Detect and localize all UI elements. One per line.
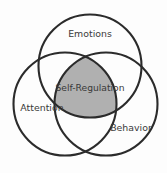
label-behavior: Behavior	[110, 122, 152, 133]
label-self-regulation: Self-Regulation	[55, 82, 124, 93]
label-emotions: Emotions	[68, 28, 112, 39]
label-attention: Attention	[20, 102, 63, 113]
venn-diagram-svg: Emotions Attention Behavior Self-Regulat…	[0, 0, 167, 173]
venn-diagram-container: Emotions Attention Behavior Self-Regulat…	[0, 0, 167, 173]
